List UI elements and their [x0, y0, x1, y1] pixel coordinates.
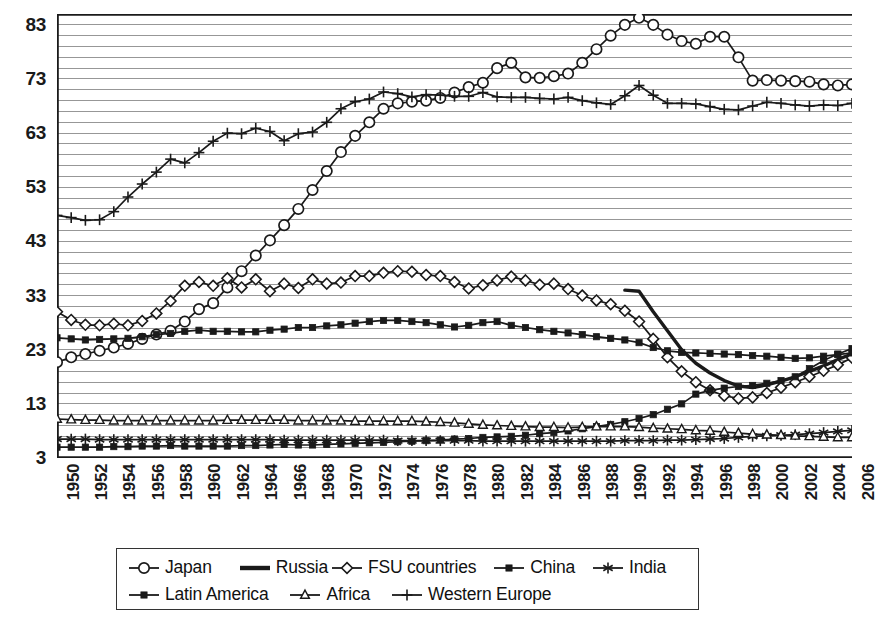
x-axis-tick-label: 1952: [92, 464, 112, 500]
legend-label: China: [530, 557, 575, 578]
x-axis-tick-label: 1962: [234, 464, 254, 500]
x-axis-tick-label: 2006: [859, 464, 879, 500]
legend-label: India: [629, 557, 666, 578]
legend-item-western-europe[interactable]: Western Europe: [390, 584, 551, 605]
series-latin-america: [57, 317, 852, 361]
open-diamond-line-icon: [330, 560, 364, 576]
x-axis-tick-label: 2002: [802, 464, 822, 500]
open-circle-line-icon: [127, 560, 161, 576]
legend-item-india[interactable]: India: [591, 557, 666, 578]
legend-label: Russia: [276, 557, 328, 578]
legend-label: Japan: [165, 557, 212, 578]
filled-square-line-icon: [127, 587, 161, 603]
y-axis-tick-label: 53: [25, 176, 46, 198]
y-axis-tick-label: 13: [25, 393, 46, 415]
y-axis-tick-label: 3: [36, 447, 46, 469]
x-axis-tick-label: 1984: [546, 464, 566, 500]
plus-line-icon: [390, 587, 424, 603]
legend-item-africa[interactable]: Africa: [288, 584, 370, 605]
legend-label: Latin America: [165, 584, 268, 605]
legend-item-japan[interactable]: Japan: [127, 557, 212, 578]
legend-label: FSU countries: [368, 557, 476, 578]
x-axis-tick-label: 1970: [347, 464, 367, 500]
legend-row-1: JapanRussiaFSU countriesChinaIndia: [127, 554, 688, 581]
y-axis-tick-label: 33: [25, 285, 46, 307]
x-axis-tick-label: 1950: [64, 464, 84, 500]
legend-item-latin-america[interactable]: Latin America: [127, 584, 268, 605]
chart-legend: JapanRussiaFSU countriesChinaIndia Latin…: [116, 548, 699, 610]
y-axis-labels: 31323334353637383: [0, 0, 52, 462]
plot-svg: [57, 14, 852, 458]
y-axis-tick-label: 23: [25, 339, 46, 361]
x-axis-tick-label: 1994: [688, 464, 708, 500]
plot-area: [57, 14, 852, 458]
x-axis-tick-label: 1998: [745, 464, 765, 500]
x-axis-labels: 1950195219541956195819601962196419661968…: [57, 464, 852, 550]
asterisk-line-icon: [591, 560, 625, 576]
x-axis-tick-label: 1964: [262, 464, 282, 500]
legend-row-2: Latin AmericaAfricaWestern Europe: [127, 581, 688, 608]
x-axis-tick-label: 1966: [291, 464, 311, 500]
x-axis-tick-label: 1960: [205, 464, 225, 500]
open-triangle-line-icon: [288, 587, 322, 603]
series-japan: [57, 14, 852, 367]
legend-item-fsu-countries[interactable]: FSU countries: [330, 557, 476, 578]
x-axis-tick-label: 1958: [177, 464, 197, 500]
legend-item-russia[interactable]: Russia: [238, 557, 328, 578]
x-axis-tick-label: 1996: [717, 464, 737, 500]
filled-square-line-icon: [492, 560, 526, 576]
plain-thick-line-icon: [238, 560, 272, 576]
x-axis-tick-label: 1988: [603, 464, 623, 500]
x-axis-tick-label: 1972: [376, 464, 396, 500]
x-axis-tick-label: 1974: [404, 464, 424, 500]
y-axis-tick-label: 83: [25, 14, 46, 36]
legend-label: Africa: [326, 584, 370, 605]
series-india: [57, 425, 852, 447]
x-axis-tick-label: 1978: [461, 464, 481, 500]
x-axis-tick-label: 1954: [120, 464, 140, 500]
legend-label: Western Europe: [428, 584, 551, 605]
gridlines: [57, 14, 852, 458]
x-axis-tick-label: 1968: [319, 464, 339, 500]
x-axis-tick-label: 2004: [830, 464, 850, 500]
x-axis-tick-label: 2000: [773, 464, 793, 500]
x-axis-tick-label: 1986: [575, 464, 595, 500]
axis-lines: [57, 14, 852, 458]
series-western-europe: [57, 80, 852, 226]
x-axis-tick-label: 1976: [433, 464, 453, 500]
x-axis-tick-label: 1990: [631, 464, 651, 500]
x-axis-tick-label: 1992: [660, 464, 680, 500]
y-axis-tick-label: 43: [25, 230, 46, 252]
y-axis-tick-label: 63: [25, 122, 46, 144]
legend-item-china[interactable]: China: [492, 557, 575, 578]
y-axis-tick-label: 73: [25, 68, 46, 90]
x-axis-tick-label: 1956: [149, 464, 169, 500]
x-axis-tick-label: 1982: [518, 464, 538, 500]
x-axis-tick-label: 1980: [489, 464, 509, 500]
